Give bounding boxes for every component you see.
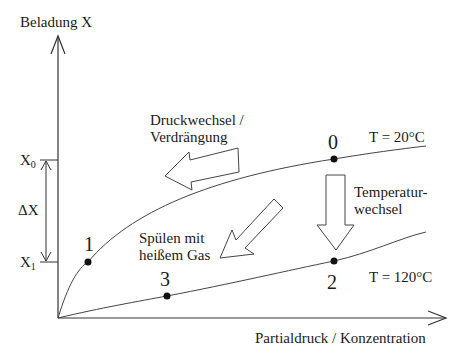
delta-x-label: ΔX xyxy=(18,202,38,219)
point-0-label: 0 xyxy=(328,132,338,152)
isotherm-120c-label: T = 120°C xyxy=(369,269,432,286)
point-3-label: 3 xyxy=(160,269,170,289)
x-axis-label: Partialdruck / Konzentration xyxy=(255,330,426,347)
purge-arrow-icon xyxy=(220,199,283,258)
x0-subscript: 0 xyxy=(31,159,36,170)
point-2 xyxy=(331,258,338,265)
x0-letter: X xyxy=(20,152,31,168)
isotherm-20c-label: T = 20°C xyxy=(369,129,425,146)
adsorption-diagram xyxy=(0,0,464,354)
x1-label: X1 xyxy=(20,254,36,275)
temperature-swing-arrow-icon xyxy=(317,175,354,250)
x1-subscript: 1 xyxy=(31,261,36,272)
purge-label: Spülen mit heißem Gas xyxy=(139,230,210,264)
temperature-swing-label: Temperatur- wechsel xyxy=(354,184,428,218)
temperature-swing-line1: Temperatur- xyxy=(354,184,428,201)
temperature-swing-line2: wechsel xyxy=(354,201,428,218)
point-3 xyxy=(164,293,171,300)
point-0 xyxy=(331,156,338,163)
pressure-swing-arrow-icon xyxy=(165,148,239,190)
x0-label: X0 xyxy=(20,152,36,173)
pressure-swing-label: Druckwechsel / Verdrängung xyxy=(150,112,244,146)
point-1-label: 1 xyxy=(84,234,94,254)
pressure-swing-line2: Verdrängung xyxy=(150,129,244,146)
purge-line2: heißem Gas xyxy=(139,247,210,264)
x1-letter: X xyxy=(20,254,31,270)
point-2-label: 2 xyxy=(327,272,337,292)
y-axis-label: Beladung X xyxy=(20,14,92,31)
pressure-swing-line1: Druckwechsel / xyxy=(150,112,244,129)
point-1 xyxy=(85,259,92,266)
isotherm-20c-curve xyxy=(58,146,426,318)
purge-line1: Spülen mit xyxy=(139,230,210,247)
